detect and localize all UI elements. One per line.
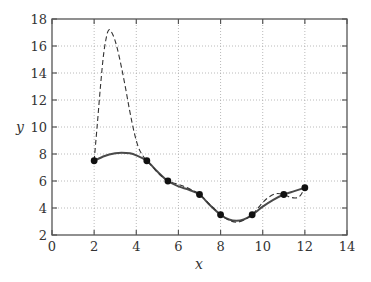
x-tick-label: 10: [254, 239, 271, 254]
x-tick-label: 6: [174, 239, 182, 254]
data-markers: [91, 157, 309, 218]
x-tick-label: 12: [297, 239, 314, 254]
y-tick-label: 8: [39, 147, 47, 162]
y-tick-label: 10: [30, 120, 47, 135]
data-point-marker: [164, 178, 171, 185]
chart: 02468101214 24681012141618 x y: [0, 0, 371, 282]
x-tick-label: 8: [216, 239, 224, 254]
x-tick-labels: 02468101214: [48, 239, 355, 254]
y-axis-label: y: [15, 119, 25, 135]
x-tick-label: 4: [132, 239, 140, 254]
x-tick-label: 0: [48, 239, 56, 254]
data-point-marker: [91, 157, 98, 164]
data-point-marker: [249, 211, 256, 218]
grid-lines: [52, 19, 347, 235]
y-tick-label: 14: [30, 66, 47, 81]
x-tick-label: 2: [90, 239, 98, 254]
y-tick-label: 16: [30, 39, 47, 54]
y-tick-labels: 24681012141618: [30, 12, 47, 243]
x-tick-label: 14: [339, 239, 356, 254]
data-point-marker: [217, 211, 224, 218]
x-axis-label: x: [195, 256, 203, 272]
y-tick-label: 12: [30, 93, 47, 108]
y-tick-label: 4: [39, 201, 47, 216]
data-point-marker: [280, 191, 287, 198]
y-tick-label: 6: [39, 174, 47, 189]
data-point-marker: [301, 184, 308, 191]
y-tick-label: 18: [30, 12, 47, 27]
y-tick-label: 2: [39, 228, 47, 243]
solid-interpolant-curve: [94, 153, 305, 221]
data-point-marker: [196, 191, 203, 198]
data-point-marker: [143, 157, 150, 164]
